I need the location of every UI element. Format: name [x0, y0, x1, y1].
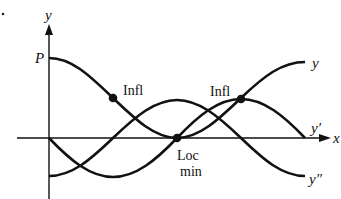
- curve-y-prime-label: y′: [309, 120, 322, 136]
- x-axis-label: x: [332, 130, 340, 146]
- p-label: P: [34, 50, 44, 66]
- loc-label: Loc: [177, 148, 199, 163]
- curve-y-double-prime-label: y″: [307, 171, 323, 187]
- y-axis-label: y: [43, 7, 52, 23]
- y-axis-arrow-icon: [45, 24, 53, 35]
- local-min-point: [173, 134, 182, 143]
- y-axis: [45, 24, 53, 199]
- infl-label-1: Infl: [123, 83, 143, 98]
- curve-y-label: y: [310, 55, 319, 71]
- infl-label-2: Infl: [210, 84, 230, 99]
- curve-y: [49, 58, 305, 138]
- inflection-point-2: [237, 95, 246, 104]
- derivative-graph: y x P Infl Infl Loc min y y′ y″: [0, 0, 341, 199]
- bullet-mark: [2, 13, 5, 16]
- min-label: min: [180, 164, 202, 179]
- inflection-point-1: [109, 94, 118, 103]
